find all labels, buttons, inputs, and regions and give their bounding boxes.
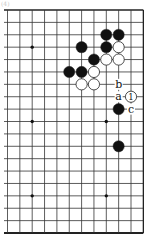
star-point (105, 194, 108, 197)
star-point (105, 120, 108, 123)
black-stone (113, 141, 124, 152)
black-stone (101, 42, 112, 53)
black-stone (113, 104, 124, 115)
star-point (31, 194, 34, 197)
white-stone (88, 79, 99, 90)
white-stone (113, 42, 124, 53)
black-stone (113, 29, 124, 40)
white-stone (88, 66, 99, 77)
black-stone (76, 66, 87, 77)
white-stone (101, 54, 112, 65)
move-number: 1 (128, 92, 133, 102)
intersection-label: c (128, 103, 134, 116)
black-stone (76, 42, 87, 53)
intersection-label: a (115, 90, 122, 103)
white-stone (113, 54, 124, 65)
stones: 1 (64, 29, 137, 152)
white-stone (76, 79, 87, 90)
star-point (31, 120, 34, 123)
intersection-label: b (115, 78, 122, 91)
star-point (31, 45, 34, 48)
black-stone (64, 66, 75, 77)
black-stone (88, 54, 99, 65)
black-stone (101, 29, 112, 40)
go-board: 1 bac (0, 0, 146, 243)
